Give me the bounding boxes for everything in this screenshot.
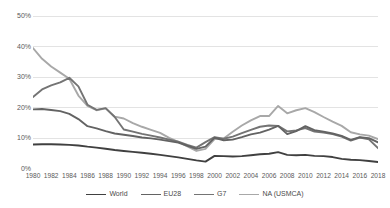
x-tick-label: 1980 — [26, 171, 41, 181]
plot-area — [33, 16, 378, 169]
x-tick-label: 1986 — [80, 171, 95, 181]
x-tick-label: 2010 — [298, 171, 313, 181]
x-tick-label: 2000 — [207, 171, 222, 181]
y-tick-label: 20% — [3, 104, 31, 112]
x-tick-label: 1998 — [189, 171, 204, 181]
legend-label: EU28 — [164, 190, 182, 198]
x-tick-label: 2012 — [316, 171, 331, 181]
x-tick-label: 2018 — [371, 171, 386, 181]
legend-item[interactable]: G7 — [194, 190, 226, 198]
line-chart: 0%10%20%30%40%50% 1980198219841986198819… — [0, 0, 390, 208]
legend-swatch-line-icon — [86, 194, 106, 195]
x-tick-label: 2008 — [280, 171, 295, 181]
x-tick-label: 1996 — [171, 171, 186, 181]
x-tick-label: 2014 — [334, 171, 349, 181]
legend-swatch-line-icon — [194, 194, 214, 195]
chart-legend: WorldEU28G7NA (USMCA) — [0, 186, 390, 202]
y-axis: 0%10%20%30%40%50% — [0, 16, 31, 169]
x-tick-label: 1992 — [135, 171, 150, 181]
legend-label: World — [109, 190, 127, 198]
x-tick-label: 1984 — [62, 171, 77, 181]
legend-swatch-line-icon — [239, 194, 259, 195]
x-tick-label: 1982 — [44, 171, 59, 181]
x-tick-label: 1994 — [153, 171, 168, 181]
x-tick-label: 2002 — [225, 171, 240, 181]
x-tick-label: 2004 — [244, 171, 259, 181]
x-tick-label: 2016 — [352, 171, 367, 181]
plot-svg — [33, 16, 378, 169]
legend-swatch-line-icon — [141, 194, 161, 195]
x-tick-label: 2006 — [262, 171, 277, 181]
legend-item[interactable]: EU28 — [141, 190, 182, 198]
x-tick-label: 1988 — [98, 171, 113, 181]
y-tick-label: 40% — [3, 43, 31, 51]
x-axis: 1980198219841986198819901992199419961998… — [33, 171, 378, 183]
y-tick-label: 30% — [3, 73, 31, 81]
legend-item[interactable]: NA (USMCA) — [239, 190, 303, 198]
legend-label: G7 — [217, 190, 226, 198]
y-tick-label: 50% — [3, 12, 31, 20]
legend-label: NA (USMCA) — [262, 190, 303, 198]
y-tick-label: 10% — [3, 134, 31, 142]
legend-item[interactable]: World — [86, 190, 127, 198]
x-tick-label: 1990 — [116, 171, 131, 181]
